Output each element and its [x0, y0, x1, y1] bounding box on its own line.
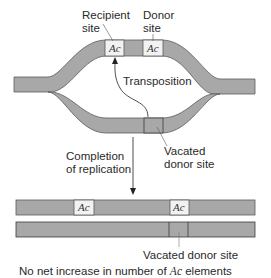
donor-site-label-line1: Donor — [143, 9, 174, 21]
donor-ac-label: Ac — [146, 42, 159, 54]
product-dna-1 — [16, 200, 255, 215]
product1-ac-left-label: Ac — [77, 201, 90, 213]
transposition-arrow — [115, 62, 148, 117]
completion-label-line2: of replication — [66, 163, 131, 175]
recipient-site-label-line1: Recipient — [82, 9, 131, 21]
completion-label-line1: Completion — [66, 150, 124, 162]
transposition-arrowhead — [112, 57, 118, 64]
conclusion-element: Ac — [169, 265, 182, 277]
recipient-site-leader — [103, 24, 113, 41]
vacated-donor-site-label-line1: Vacated — [164, 145, 205, 157]
product-dna-2 — [16, 222, 255, 237]
vacated-donor-site-label-line2: donor site — [164, 158, 215, 170]
recipient-ac-label: Ac — [108, 42, 121, 54]
vacated-donor-site-bottom-label: Vacated donor site — [143, 249, 238, 261]
transposition-label: Transposition — [123, 75, 192, 87]
vacated-donor-site-bubble — [144, 118, 163, 133]
donor-site-label-line2: site — [143, 22, 161, 34]
conclusion-text: No net increase in number of Ac elements — [19, 265, 232, 277]
recipient-site-label-line2: site — [82, 22, 100, 34]
transposition-diagram: Ac Ac Recipient site Donor site Transpos… — [0, 0, 271, 278]
completion-arrowhead — [130, 188, 136, 195]
replication-bubble-bottom-strand — [48, 92, 220, 133]
product1-ac-right-label: Ac — [172, 201, 185, 213]
conclusion-suffix: elements — [182, 265, 232, 277]
conclusion-prefix: No net increase in number of — [19, 265, 170, 277]
